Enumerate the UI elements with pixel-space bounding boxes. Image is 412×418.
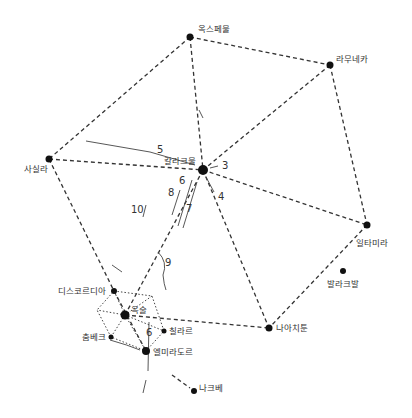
node-naachitun[interactable]: [266, 325, 273, 332]
node-chillare[interactable]: [162, 329, 167, 334]
link-ramuneka-kallakmul: [203, 65, 330, 170]
node-chungbek[interactable]: [109, 335, 114, 340]
link-oxpemul-kallakmul: [190, 37, 203, 170]
route-4: [206, 177, 214, 192]
label-nakbe: 나크베: [199, 383, 223, 393]
link-kallakmul-naachitun: [203, 170, 269, 328]
dotted-local-network: [97, 291, 164, 351]
label-elmiradol: 엘미라도르: [153, 347, 193, 357]
label-naachitun: 나아치툰: [276, 323, 308, 333]
route-label-8: 8: [168, 187, 174, 198]
link-iltamira-naachitun: [269, 225, 367, 328]
link-kallakmul-iltamira: [203, 170, 367, 225]
route-fragment: [199, 110, 203, 118]
node-iltamira[interactable]: [364, 222, 371, 229]
label-oksul: 옥술: [131, 305, 147, 315]
link-diskordia-elmiradol: [114, 291, 146, 351]
link-oxpemul-sasilla: [49, 37, 190, 159]
node-sasilla[interactable]: [46, 156, 53, 163]
label-ramuneka: 라무네카: [336, 54, 368, 64]
label-iltamira: 일타미라: [356, 238, 388, 248]
route-label-5: 5: [157, 144, 163, 155]
route-label-4: 4: [218, 191, 224, 202]
link-ramuneka-iltamira: [330, 65, 367, 225]
route-label-6: 6: [179, 175, 185, 186]
label-oxpemul: 옥스페물: [198, 24, 230, 34]
node-oxpemul[interactable]: [187, 34, 194, 41]
solid-routes: [86, 110, 218, 393]
link-sasilla-diskordia: [49, 159, 114, 291]
label-chungbek: 춤베크: [82, 332, 106, 342]
node-diskordia[interactable]: [111, 288, 117, 294]
label-diskordia: 디스코르디아: [58, 286, 106, 296]
link-kallakmul-oksul: [125, 170, 203, 315]
route-label-3: 3: [222, 160, 228, 171]
route-fragment: [110, 340, 140, 350]
label-chillare: 칠라르: [169, 326, 193, 336]
route-label-6-local: 6: [146, 327, 152, 338]
route-fragment: [143, 380, 146, 393]
node-oksul[interactable]: [121, 311, 130, 320]
maya-causeway-network-diagram: 옥스페물 라무네카 사실라 칼라크물 일타미라 발라크발 디스코르디아 옥술 칠…: [0, 0, 412, 418]
route-3: [210, 166, 218, 168]
route-label-7: 7: [186, 203, 192, 214]
node-balakbal[interactable]: [340, 268, 346, 274]
label-kallakmul: 칼라크물: [164, 156, 196, 166]
label-balakbal: 발라크발: [327, 279, 359, 289]
route-label-10: 10: [131, 204, 144, 215]
node-ramuneka[interactable]: [327, 62, 334, 69]
route-fragment: [112, 265, 122, 272]
route-label-9: 9: [165, 257, 171, 268]
label-sasilla: 사실라: [24, 164, 48, 174]
local-hexagon: [97, 291, 164, 351]
link-oxpemul-ramuneka: [190, 37, 330, 65]
node-kallakmul[interactable]: [198, 165, 208, 175]
link-elmiradol-nakbe: [172, 375, 190, 388]
node-nakbe[interactable]: [191, 388, 197, 394]
node-elmiradol[interactable]: [142, 347, 150, 355]
